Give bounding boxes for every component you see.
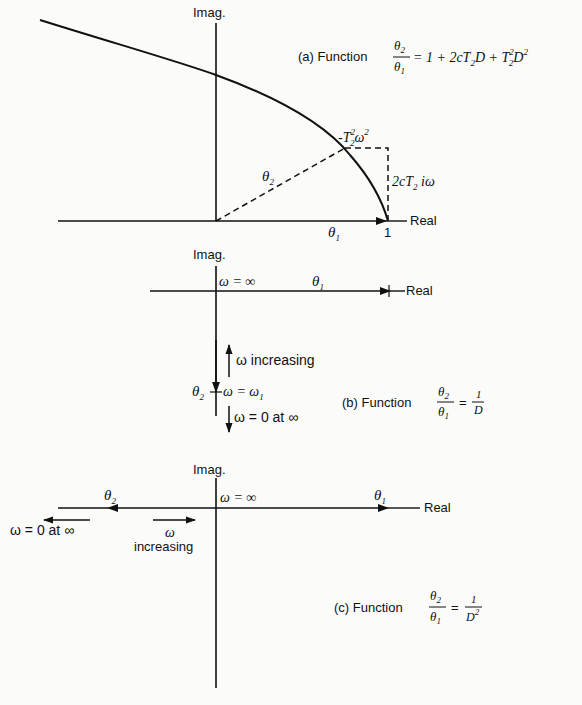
panel-a-theta2-label: θ2	[262, 168, 274, 187]
panel-c-theta1-label: θ1	[374, 487, 386, 506]
panel-a-imag-label: Imag.	[193, 5, 226, 20]
panel-b-caption: (b) Function θ2 θ1 = 1 D	[342, 384, 484, 421]
panel-a-real-term-label: -T22ω2	[338, 127, 369, 148]
panel-a: Imag. Real 1 θ2 θ1 -T22ω2 2cT2 iω (a) Fu…	[40, 5, 528, 243]
panel-a-real-label: Real	[410, 213, 437, 228]
svg-text:(c) Function: (c) Function	[334, 600, 403, 615]
panel-a-theta2-vector	[216, 148, 345, 221]
diagram-canvas: Imag. Real 1 θ2 θ1 -T22ω2 2cT2 iω (a) Fu…	[0, 0, 582, 705]
svg-text:θ1: θ1	[438, 404, 449, 421]
panel-b-real-label: Real	[406, 283, 433, 298]
svg-text:1: 1	[471, 593, 477, 605]
svg-text:θ1: θ1	[394, 59, 405, 76]
panel-b: Imag. Real ω = ∞ θ1 ω increasing θ2 ω = …	[150, 247, 484, 432]
svg-text:D2: D2	[465, 607, 480, 624]
panel-b-omega-w1-label: ω = ω1	[223, 384, 264, 402]
svg-text:D: D	[473, 403, 483, 417]
svg-text:θ2: θ2	[430, 588, 441, 605]
panel-b-theta2-label: θ2	[192, 383, 204, 402]
panel-c: Imag. Real ω = ∞ θ1 θ2 ω = 0 at ∞ ω incr…	[10, 462, 482, 688]
svg-text:=: =	[459, 395, 467, 410]
panel-b-imag-label: Imag.	[193, 247, 226, 262]
panel-a-unit-tick-label: 1	[384, 225, 391, 240]
svg-text:(b) Function: (b) Function	[342, 395, 411, 410]
svg-text:= 1 + 2cT2D + T22D2: = 1 + 2cT2D + T22D2	[413, 47, 528, 68]
panel-b-omega-increasing-label: ω increasing	[236, 352, 315, 368]
svg-text:θ2: θ2	[438, 384, 449, 401]
panel-b-omega-inf-label: ω = ∞	[219, 274, 255, 289]
panel-c-real-label: Real	[424, 500, 451, 515]
panel-a-imag-term-label: 2cT2 iω	[392, 174, 435, 192]
panel-c-imag-label: Imag.	[193, 462, 226, 477]
panel-b-theta1-label: θ1	[312, 273, 324, 292]
svg-text:θ1: θ1	[430, 609, 441, 626]
panel-c-omega-inf-label: ω = ∞	[220, 490, 256, 505]
svg-text:θ2: θ2	[394, 38, 405, 55]
panel-c-theta2-label: θ2	[104, 487, 116, 506]
panel-c-omega-label: ω	[165, 525, 175, 540]
panel-a-theta1-label: θ1	[328, 224, 340, 243]
panel-c-caption: (c) Function θ2 θ1 = 1 D2	[334, 588, 482, 626]
panel-c-increasing-label: increasing	[134, 539, 193, 554]
svg-text:(a) Function: (a) Function	[298, 49, 367, 64]
panel-c-omega-zero-label: ω = 0 at ∞	[10, 522, 74, 538]
panel-a-component-box	[345, 148, 388, 221]
panel-a-caption: (a) Function θ2 θ1 = 1 + 2cT2D + T22D2	[298, 38, 528, 76]
svg-text:=: =	[451, 600, 459, 615]
panel-b-omega-zero-label: ω = 0 at ∞	[234, 409, 298, 425]
svg-text:1: 1	[476, 388, 482, 400]
